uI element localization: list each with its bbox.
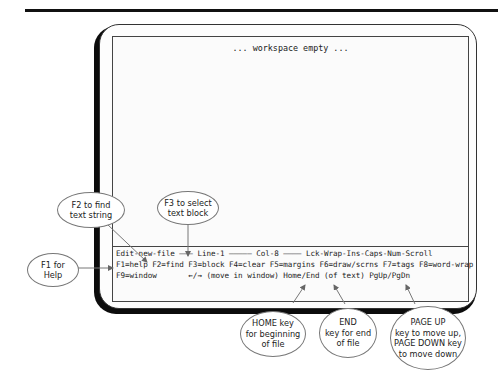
callout-text: for beginning bbox=[241, 329, 305, 340]
callout-end-key: END key for end of file bbox=[319, 308, 377, 358]
callout-f1-help: F1 for Help bbox=[27, 253, 79, 287]
callout-text: text string bbox=[58, 210, 124, 221]
callout-f3-block: F3 to select text block bbox=[157, 191, 219, 225]
callout-text: HOME key bbox=[241, 318, 305, 329]
callout-f2-find: F2 to find text string bbox=[57, 192, 125, 228]
callout-text: END bbox=[320, 317, 376, 328]
callout-text: F1 for bbox=[28, 260, 78, 271]
callout-text: Help bbox=[28, 270, 78, 281]
callout-home-key: HOME key for beginning of file bbox=[240, 311, 306, 357]
callout-page-keys: PAGE UP key to move up, PAGE DOWN key to… bbox=[390, 306, 466, 370]
callout-text: PAGE DOWN key bbox=[391, 338, 465, 349]
callout-text: F3 to select bbox=[158, 198, 218, 209]
callout-text: to move down bbox=[391, 349, 465, 360]
callout-text: of file bbox=[241, 339, 305, 350]
callout-text: of file bbox=[320, 338, 376, 349]
callout-text: F2 to find bbox=[58, 200, 124, 211]
callout-text: text block bbox=[158, 208, 218, 219]
callout-text: key for end bbox=[320, 328, 376, 339]
callout-text: PAGE UP bbox=[391, 317, 465, 328]
callout-text: key to move up, bbox=[391, 328, 465, 339]
